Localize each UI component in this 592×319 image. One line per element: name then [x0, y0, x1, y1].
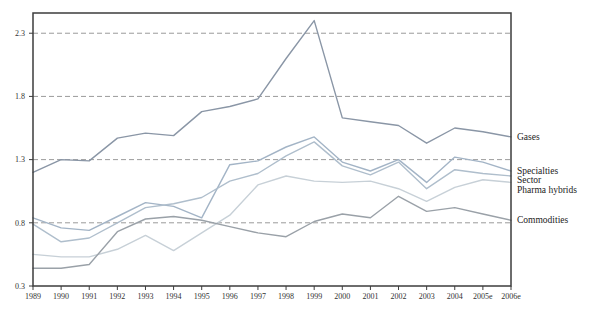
chart-canvas: 0.30.81.31.82.31989199019911992199319941…: [0, 0, 592, 319]
series-line-specialties: [33, 137, 511, 231]
series-label-commodities: Commodities: [517, 215, 569, 225]
y-tick-label-0.3: 0.3: [15, 282, 25, 291]
series-label-gases: Gases: [517, 132, 540, 142]
x-tick-label-1990: 1990: [53, 292, 69, 301]
x-tick-label-1999: 1999: [306, 292, 322, 301]
series-label-sector: Sector: [517, 175, 542, 185]
series-label-pharma-hybrids: Pharma hybrids: [517, 185, 577, 195]
x-tick-label-1993: 1993: [137, 292, 153, 301]
x-tick-label-1997: 1997: [250, 292, 266, 301]
x-tick-label-2006e: 2006e: [501, 292, 521, 301]
series-line-sector: [33, 142, 511, 242]
y-tick-label-1.3: 1.3: [15, 155, 25, 164]
x-tick-label-2000: 2000: [334, 292, 350, 301]
x-tick-label-2002: 2002: [391, 292, 407, 301]
y-tick-label-2.3: 2.3: [15, 29, 25, 38]
x-tick-label-1994: 1994: [166, 292, 182, 301]
line-chart: 0.30.81.31.82.31989199019911992199319941…: [0, 0, 592, 319]
x-tick-label-1991: 1991: [81, 292, 97, 301]
series-line-gases: [33, 21, 511, 173]
x-tick-label-2001: 2001: [362, 292, 378, 301]
plot-frame: [33, 13, 511, 286]
x-tick-label-2003: 2003: [419, 292, 435, 301]
x-tick-label-2004: 2004: [447, 292, 463, 301]
y-tick-label-0.8: 0.8: [15, 219, 25, 228]
series-label-specialties: Specialties: [517, 166, 558, 176]
series-line-commodities: [33, 196, 511, 268]
x-tick-label-2005e: 2005e: [473, 292, 493, 301]
series-line-pharma-hybrids: [33, 176, 511, 257]
x-tick-label-1998: 1998: [278, 292, 294, 301]
x-tick-label-1996: 1996: [222, 292, 238, 301]
x-tick-label-1992: 1992: [109, 292, 125, 301]
y-tick-label-1.8: 1.8: [15, 92, 25, 101]
x-tick-label-1995: 1995: [194, 292, 210, 301]
x-tick-label-1989: 1989: [25, 292, 41, 301]
